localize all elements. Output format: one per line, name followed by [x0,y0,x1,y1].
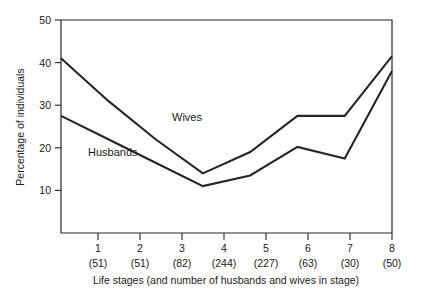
series-line-husbands [61,71,392,186]
x-axis-tick-labels: 1 2 3 4 5 6 7 8 [95,242,395,254]
x-axis-ticks [98,233,392,240]
y-tick-label-10: 10 [39,184,51,196]
x-axis-count-labels: (51) (51) (82) (244) (227) (63) (30) (50… [89,257,402,269]
line-chart-svg: 50 40 30 20 10 Percentage of individuals… [0,0,426,291]
x-tick-label-8: 8 [389,242,395,254]
x-tick-label-2: 2 [137,242,143,254]
axis-frame [61,20,392,233]
x-count-label-3: (82) [173,257,192,269]
x-tick-label-7: 7 [347,242,353,254]
series-annotation-wives: Wives [172,111,202,123]
x-count-label-2: (51) [131,257,150,269]
x-count-label-4: (244) [212,257,237,269]
x-tick-label-6: 6 [305,242,311,254]
x-tick-label-3: 3 [179,242,185,254]
x-tick-label-5: 5 [263,242,269,254]
y-tick-label-50: 50 [39,14,51,26]
plot-frame [61,20,392,233]
x-axis-title: Life stages (and number of husbands and … [93,274,359,286]
y-tick-label-20: 20 [39,142,51,154]
chart-figure: 50 40 30 20 10 Percentage of individuals… [0,0,426,291]
y-axis-ticks [55,20,61,190]
x-count-label-5: (227) [254,257,279,269]
x-tick-label-4: 4 [221,242,227,254]
x-count-label-7: (30) [341,257,360,269]
y-tick-label-30: 30 [39,99,51,111]
y-tick-label-40: 40 [39,57,51,69]
x-tick-label-1: 1 [95,242,101,254]
x-count-label-1: (51) [89,257,108,269]
x-count-label-6: (63) [299,257,318,269]
y-axis-title: Percentage of individuals [14,68,26,185]
y-axis-tick-labels: 50 40 30 20 10 [39,14,51,196]
x-count-label-8: (50) [383,257,402,269]
series-annotation-husbands: Husbands [88,146,138,158]
